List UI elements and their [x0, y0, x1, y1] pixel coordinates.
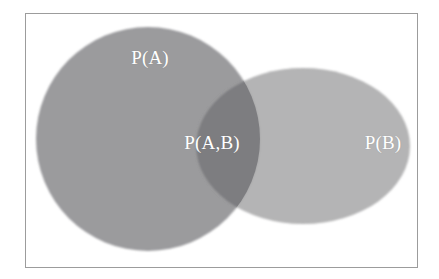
- intersection-label: P(A,B): [184, 133, 240, 152]
- venn-diagram-figure: P(A) P(A,B) P(B): [0, 0, 439, 279]
- set-a-label: P(A): [131, 48, 169, 67]
- set-b-label: P(B): [365, 133, 402, 152]
